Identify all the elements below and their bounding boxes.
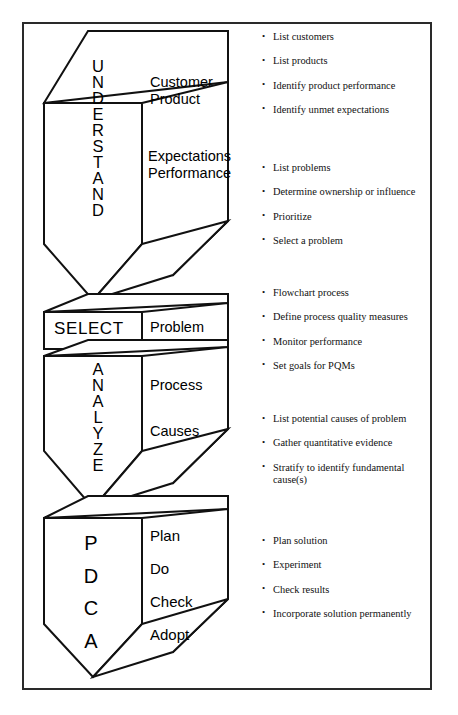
letter: L [93,409,102,425]
letter: A [84,625,97,658]
letter: N [92,186,104,202]
diagram-page: U N D E R S T A N D Customer Product Exp… [0,0,458,715]
bullet-group-understand: List customers List products Identify pr… [262,31,434,128]
pdca-item-adopt: Adopt [150,626,189,643]
letter: U [92,58,104,74]
understand-stage-label: U N D E R S T A N D [80,58,116,218]
bullet-item: Set goals for PQMs [262,360,434,373]
analyze-item-process: Process [150,377,202,394]
letter: D [92,90,104,106]
letter: D [84,560,98,593]
bullet-item: Check results [262,584,434,597]
letter: R [92,122,104,138]
bullet-group-analyze-causes: List potential causes of problem Gather … [262,413,434,499]
bullet-group-pdca: Plan solution Experiment Check results I… [262,535,434,632]
bullet-item: Experiment [262,559,434,572]
analyze-item-causes: Causes [150,423,199,440]
letter: E [92,457,103,473]
pdca-item-check: Check [150,593,193,610]
pdca-stage-label: P D C A [74,527,108,657]
bullet-item: Gather quantitative evidence [262,437,434,450]
bullet-item: Flowchart process [262,287,434,300]
bullet-item: Identify unmet expectations [262,104,434,117]
process-funnel-diagram: U N D E R S T A N D Customer Product Exp… [22,22,258,690]
bullet-item: Determine ownership or influence [262,186,434,199]
bullet-item: Define process quality measures [262,311,434,324]
letter: C [84,592,98,625]
letter: P [84,527,97,560]
letter: T [93,154,103,170]
bullet-group-select: List problems Determine ownership or inf… [262,162,434,259]
activity-bullet-column: List customers List products Identify pr… [262,22,432,690]
bullet-item: List customers [262,31,434,44]
letter: A [92,170,103,186]
bullet-group-analyze-process: Flowchart process Define process quality… [262,287,434,384]
pdca-item-do: Do [150,560,169,577]
bullet-item: List products [262,55,434,68]
analyze-stage-label: A N A L Y Z E [80,361,116,473]
letter: A [92,393,103,409]
bullet-item: Monitor performance [262,336,434,349]
letter: Y [92,425,103,441]
pdca-item-plan: Plan [150,527,180,544]
bullet-item: Incorporate solution permanently [262,608,434,621]
bullet-item: Prioritize [262,211,434,224]
bullet-item: Select a problem [262,235,434,248]
understand-item-performance: Performance [148,165,231,182]
letter: N [92,74,104,90]
letter: N [92,377,104,393]
bullet-item: List problems [262,162,434,175]
letter: D [92,202,104,218]
letter: E [92,106,103,122]
letter: A [92,361,103,377]
letter: S [92,138,103,154]
letter: Z [93,441,103,457]
select-item-problem: Problem [150,319,204,336]
select-stage-label: SELECT [54,319,124,339]
bullet-item: Plan solution [262,535,434,548]
bullet-item: List potential causes of problem [262,413,434,426]
understand-item-customer: Customer [150,74,213,91]
bullet-item: Identify product performance [262,80,434,93]
bullet-item: Stratify to identify fundamental cause(s… [262,462,434,488]
understand-item-expectations: Expectations [148,148,231,165]
understand-item-product: Product [150,91,200,108]
